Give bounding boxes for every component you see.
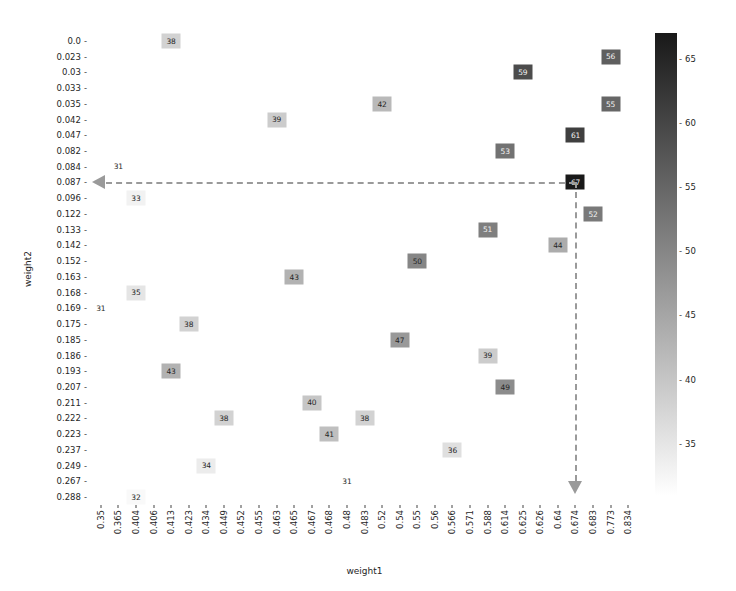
y-tick-text: 0.035 — [57, 99, 81, 109]
colorbar-tick-label: -50 — [679, 247, 696, 256]
y-tick-mark: - — [84, 210, 87, 219]
x-tick-mark — [100, 505, 101, 508]
y-tick-mark: - — [84, 288, 87, 297]
x-tick-label: 0.463 — [272, 510, 281, 534]
x-tick-label: 0.683 — [589, 510, 598, 534]
y-tick-mark: - — [84, 115, 87, 124]
x-tick-mark — [364, 505, 365, 508]
x-tick-label: 0.413 — [167, 510, 176, 534]
y-tick-label: 0.042- — [57, 115, 87, 124]
x-tick-label: 0.434 — [202, 510, 211, 534]
heatmap-cell: 47 — [390, 332, 409, 347]
y-tick-label: 0.03- — [62, 68, 87, 77]
x-tick-mark — [188, 505, 189, 508]
y-tick-mark: - — [84, 273, 87, 282]
x-tick-mark — [505, 505, 506, 508]
y-tick-mark: - — [84, 414, 87, 423]
x-tick-label: 0.423 — [184, 510, 193, 534]
heatmap-cell: 43 — [162, 364, 181, 379]
colorbar-tick-text: 60 — [685, 118, 696, 128]
heatmap-cell: 38 — [162, 33, 181, 48]
x-tick-mark — [171, 505, 172, 508]
colorbar-tick-mark: - — [679, 375, 682, 384]
y-tick-text: 0.03 — [62, 67, 81, 77]
y-tick-label: 0.267- — [57, 477, 87, 486]
y-tick-text: 0.042 — [57, 114, 81, 124]
y-tick-mark: - — [84, 100, 87, 109]
y-tick-text: 0.169 — [57, 303, 81, 313]
vertical-annotation-line — [575, 182, 577, 481]
colorbar-tick-label: -40 — [679, 375, 696, 384]
y-tick-label: 0.185- — [57, 336, 87, 345]
y-tick-text: 0.223 — [57, 429, 81, 439]
x-tick-mark — [294, 505, 295, 508]
y-tick-mark: - — [84, 430, 87, 439]
y-tick-label: 0.249- — [57, 461, 87, 470]
heatmap-cell: 36 — [443, 442, 462, 457]
x-tick-mark — [206, 505, 207, 508]
heatmap-cell: 41 — [320, 427, 339, 442]
x-axis-title: weight1 — [92, 566, 637, 576]
y-tick-label: 0.163- — [57, 273, 87, 282]
colorbar-tick-text: 50 — [685, 246, 696, 256]
y-tick-mark: - — [84, 68, 87, 77]
x-tick-mark — [276, 505, 277, 508]
x-tick-label: 0.48 — [343, 510, 352, 529]
y-tick-text: 0.084 — [57, 161, 81, 171]
y-tick-text: 0.142 — [57, 240, 81, 250]
heatmap-cell: 51 — [478, 222, 497, 237]
colorbar-tick-mark: - — [679, 247, 682, 256]
y-tick-label: 0.084- — [57, 162, 87, 171]
y-tick-text: 0.237 — [57, 445, 81, 455]
y-tick-label: 0.207- — [57, 383, 87, 392]
y-tick-text: 0.222 — [57, 413, 81, 423]
x-tick-mark — [223, 505, 224, 508]
y-tick-label: 0.0- — [67, 37, 87, 46]
horizontal-annotation-line — [106, 182, 575, 184]
x-tick-label: 0.773 — [606, 510, 615, 534]
colorbar-gradient — [655, 33, 677, 495]
heatmap-cell: 31 — [109, 159, 128, 174]
heatmap-cell: 44 — [548, 238, 567, 253]
x-tick-label: 0.571 — [466, 510, 475, 534]
y-axis-title: weight2 — [10, 33, 46, 505]
y-tick-mark: - — [84, 194, 87, 203]
y-tick-label: 0.175- — [57, 320, 87, 329]
x-tick-mark — [417, 505, 418, 508]
heatmap-cell: 31 — [337, 474, 356, 489]
colorbar-tick-label: -35 — [679, 439, 696, 448]
y-tick-mark: - — [84, 461, 87, 470]
x-tick-mark — [382, 505, 383, 508]
y-tick-mark: - — [84, 241, 87, 250]
y-tick-text: 0.288 — [57, 492, 81, 502]
x-tick-mark — [557, 505, 558, 508]
x-tick-label: 0.54 — [395, 510, 404, 529]
y-tick-mark: - — [84, 336, 87, 345]
x-tick-mark — [153, 505, 154, 508]
x-tick-label: 0.56 — [431, 510, 440, 529]
y-tick-label: 0.035- — [57, 100, 87, 109]
colorbar-tick-mark: - — [679, 439, 682, 448]
x-tick-label: 0.588 — [483, 510, 492, 534]
y-tick-mark: - — [84, 493, 87, 502]
y-tick-mark: - — [84, 37, 87, 46]
colorbar-tick-text: 55 — [685, 182, 696, 192]
y-tick-mark: - — [84, 351, 87, 360]
y-tick-mark: - — [84, 446, 87, 455]
y-tick-mark: - — [84, 131, 87, 140]
heatmap-cell: 52 — [584, 206, 603, 221]
x-tick-label: 0.452 — [237, 510, 246, 534]
heatmap-cell: 33 — [126, 191, 145, 206]
y-tick-text: 0.211 — [57, 397, 81, 407]
y-tick-text: 0.033 — [57, 83, 81, 93]
heatmap-figure: 0.0-0.023-0.03-0.033-0.035-0.042-0.047-0… — [0, 0, 736, 591]
y-tick-label: 0.087- — [57, 178, 87, 187]
y-tick-text: 0.023 — [57, 51, 81, 61]
colorbar-tick-text: 40 — [685, 374, 696, 384]
x-tick-label: 0.483 — [360, 510, 369, 534]
y-tick-text: 0.175 — [57, 319, 81, 329]
x-tick-mark — [311, 505, 312, 508]
x-tick-mark — [118, 505, 119, 508]
y-tick-text: 0.163 — [57, 272, 81, 282]
colorbar-tick-mark: - — [679, 183, 682, 192]
